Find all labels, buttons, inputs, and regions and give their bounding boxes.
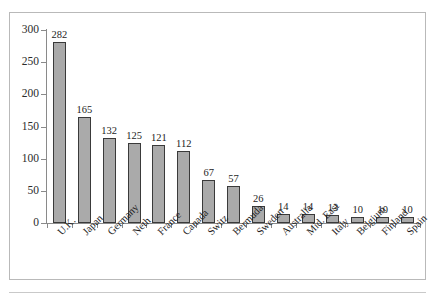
y-axis-label: 250 xyxy=(5,56,39,68)
y-axis-tick xyxy=(41,223,46,224)
x-axis-tick xyxy=(47,224,48,228)
y-axis-tick xyxy=(41,191,46,192)
y-axis-label: 100 xyxy=(5,153,39,165)
y-axis-tick-labels: 050100150200250300 xyxy=(0,0,39,299)
bar-value-label: 112 xyxy=(168,139,200,150)
bar-value-label: 165 xyxy=(68,105,100,116)
figure-frame xyxy=(9,12,426,280)
bar xyxy=(227,186,240,223)
y-axis-label: 0 xyxy=(5,217,39,229)
bar xyxy=(103,138,116,223)
y-axis-label: 300 xyxy=(5,24,39,36)
y-axis-tick xyxy=(41,94,46,95)
y-axis-tick xyxy=(41,159,46,160)
y-axis-tick xyxy=(41,62,46,63)
bar-value-label: 57 xyxy=(218,174,250,185)
bar-value-label: 282 xyxy=(43,30,75,41)
bar xyxy=(78,117,91,223)
bar xyxy=(53,42,66,223)
y-axis-line xyxy=(46,29,47,224)
bottom-divider-rule xyxy=(9,292,426,293)
y-axis-label: 50 xyxy=(5,185,39,197)
bar xyxy=(152,145,165,223)
y-axis-label: 150 xyxy=(5,121,39,133)
y-axis-tick xyxy=(41,127,46,128)
y-axis-label: 200 xyxy=(5,89,39,101)
